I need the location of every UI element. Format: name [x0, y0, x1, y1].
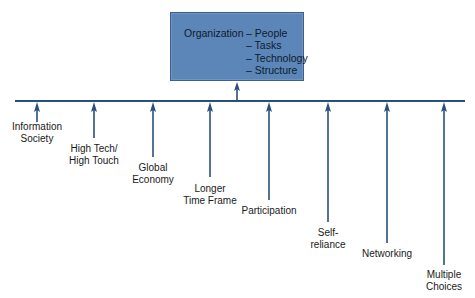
factor-arrow-icon — [207, 102, 213, 177]
factor-label: High Tech/High Touch — [69, 143, 119, 167]
factor-label-line: Self- — [310, 227, 345, 239]
factor-arrow-icon — [150, 102, 156, 157]
factor-label: Participation — [241, 205, 296, 217]
factor-arrow-icon — [34, 102, 40, 122]
factor-label-line: Economy — [132, 174, 174, 186]
factor-arrow-icon — [441, 102, 447, 265]
factor-label-line: Choices — [426, 281, 462, 293]
factor-label: Networking — [362, 248, 412, 260]
factor-label-line: reliance — [310, 239, 345, 251]
arrow-icons — [34, 82, 447, 265]
factor-label: Self-reliance — [310, 227, 345, 251]
factor-arrow-icon — [266, 102, 272, 200]
factor-label-line: Global — [132, 162, 174, 174]
factor-arrow-icon — [325, 102, 331, 222]
factor-label-line: Participation — [241, 205, 296, 217]
factor-label-line: High Touch — [69, 155, 119, 167]
factor-label-line: Information — [12, 121, 62, 133]
factor-arrow-icon — [91, 102, 97, 138]
factor-label-line: High Tech/ — [69, 143, 119, 155]
factor-label: InformationSociety — [12, 121, 62, 145]
factor-label-line: Society — [12, 133, 62, 145]
factor-arrow-icon — [384, 102, 390, 243]
central-arrow-icon — [234, 82, 240, 100]
factor-label: MultipleChoices — [426, 269, 462, 293]
factor-label-line: Multiple — [426, 269, 462, 281]
factor-label-line: Networking — [362, 248, 412, 260]
factor-label-line: Longer — [183, 183, 237, 195]
factor-label-line: Time Frame — [183, 195, 237, 207]
factor-label: GlobalEconomy — [132, 162, 174, 186]
factor-label: LongerTime Frame — [183, 183, 237, 207]
